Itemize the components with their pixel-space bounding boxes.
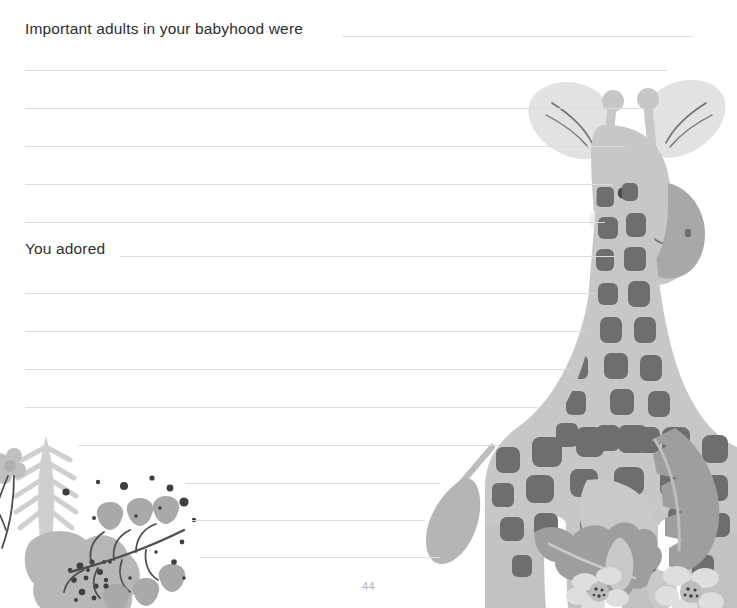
rule-13[interactable]	[200, 557, 440, 558]
rule-prompt-2[interactable]	[120, 256, 615, 257]
giraffe-ear-left	[528, 82, 607, 159]
small-flower	[0, 448, 26, 484]
giraffe-legs	[512, 516, 682, 608]
fern-leaf	[16, 436, 76, 540]
giraffe-neck-spots	[556, 183, 670, 453]
rule-prompt-1[interactable]	[342, 36, 692, 37]
rule-6[interactable]	[25, 293, 595, 294]
big-flower	[25, 531, 140, 608]
prompt-important-adults: Important adults in your babyhood were	[25, 20, 303, 38]
small-leaves	[605, 538, 677, 608]
rule-1[interactable]	[25, 70, 667, 71]
giraffe-head	[589, 125, 705, 285]
rule-7[interactable]	[25, 331, 585, 332]
rule-11[interactable]	[185, 483, 440, 484]
baby-book-page: Important adults in your babyhood were Y…	[0, 0, 737, 608]
rule-10[interactable]	[78, 445, 498, 446]
broad-leaf	[580, 479, 656, 563]
prompt-you-adored: You adored	[25, 240, 105, 258]
page-number: 44	[0, 580, 737, 592]
rule-9[interactable]	[25, 407, 540, 408]
rule-4[interactable]	[25, 184, 613, 185]
rule-5[interactable]	[25, 222, 605, 223]
rule-3[interactable]	[25, 146, 625, 147]
monstera-leaf	[651, 428, 719, 571]
thin-stems	[0, 476, 14, 548]
giraffe-tail	[426, 447, 492, 564]
giraffe-body-spots	[492, 425, 730, 577]
giraffe-ear-right	[648, 80, 726, 158]
giraffe-ossicones	[602, 88, 659, 147]
rule-2[interactable]	[25, 108, 645, 109]
scatter-dots	[62, 475, 196, 588]
rule-8[interactable]	[25, 369, 570, 370]
rule-12[interactable]	[192, 520, 425, 521]
